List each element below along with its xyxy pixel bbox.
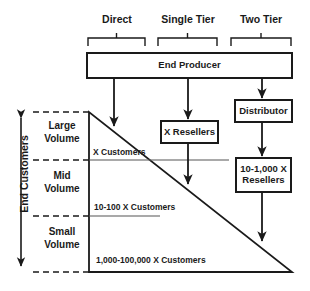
box-label-x-resellers: X Resellers bbox=[161, 121, 218, 143]
tier-large-line2: Volume bbox=[36, 133, 88, 146]
tier-mid-line1: Mid bbox=[36, 170, 88, 183]
distribution-channel-diagram: Direct Single Tier Two Tier End Producer… bbox=[0, 0, 310, 291]
tier-name-mid-volume: Mid Volume bbox=[36, 170, 88, 195]
bracket-direct bbox=[88, 33, 145, 46]
customers-small-volume: 1,000-100,000 X Customers bbox=[96, 256, 206, 266]
axis-label-end-customers: End Customers bbox=[18, 126, 30, 222]
tier-small-line1: Small bbox=[36, 226, 88, 239]
tier-mid-line2: Volume bbox=[36, 183, 88, 196]
tier-large-line1: Large bbox=[36, 120, 88, 133]
bracket-two-tier bbox=[231, 33, 291, 46]
tier-name-large-volume: Large Volume bbox=[36, 120, 88, 145]
channel-header-two-tier: Two Tier bbox=[231, 13, 291, 25]
channel-header-direct: Direct bbox=[88, 13, 146, 25]
channel-header-single-tier: Single Tier bbox=[157, 13, 219, 25]
box-label-end-producer: End Producer bbox=[87, 53, 292, 78]
customers-mid-volume: 10-100 X Customers bbox=[94, 203, 175, 213]
box-label-tier2-resellers: 10-1,000 X Resellers bbox=[236, 158, 291, 192]
customers-large-volume: X Customers bbox=[93, 148, 145, 158]
tier-small-line2: Volume bbox=[36, 239, 88, 252]
box-label-distributor: Distributor bbox=[235, 100, 292, 122]
bracket-single-tier bbox=[158, 33, 217, 46]
tier-name-small-volume: Small Volume bbox=[36, 226, 88, 251]
